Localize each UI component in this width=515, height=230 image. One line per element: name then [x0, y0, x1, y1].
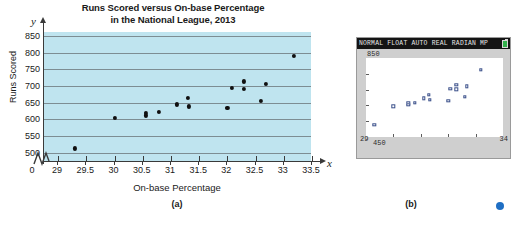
calculator-data-point	[373, 123, 376, 126]
x-axis-tick-label: 29	[52, 165, 62, 175]
x-axis-tick-label: 29.5	[77, 165, 95, 175]
x-axis-tick-label: 32.5	[246, 165, 264, 175]
y-axis-arrow-icon	[40, 17, 46, 23]
calculator-data-point	[455, 88, 458, 91]
y-axis-tick-label: 850	[16, 31, 40, 41]
calculator-x-min-label: 29	[360, 135, 368, 143]
calculator-y-max-label: 850	[367, 50, 380, 58]
y-axis-tick-label: 550	[16, 131, 40, 141]
calculator-mode-text: NORMAL FLOAT AUTO REAL RADIAN MP	[359, 40, 488, 47]
y-axis-tick-label: 600	[16, 114, 40, 124]
calculator-data-point	[407, 103, 410, 106]
x-axis-tick-label: 33.5	[302, 165, 320, 175]
data-point	[230, 86, 234, 90]
panel-a-caption: (a)	[43, 199, 311, 209]
gridline	[44, 36, 311, 37]
x-axis-tick-label: 30	[109, 165, 119, 175]
gridline	[44, 153, 311, 154]
data-point	[242, 79, 246, 83]
axis-break-icon	[33, 148, 53, 166]
chart-title-line-1: Runs Scored versus On-base Percentage	[28, 2, 318, 14]
calculator-data-point	[465, 85, 468, 88]
calculator-x-max-label: 34	[500, 135, 508, 143]
calculator-x-tick	[476, 134, 477, 137]
calculator-data-point	[449, 87, 452, 90]
calculator-data-point	[427, 93, 430, 96]
calculator-data-point	[428, 98, 431, 101]
data-point	[143, 113, 147, 117]
calculator-x-tick	[421, 134, 422, 137]
x-axis-origin-label: 0	[29, 165, 34, 175]
y-axis-line	[43, 22, 44, 164]
battery-icon	[502, 40, 508, 48]
data-point	[174, 102, 178, 106]
gridline	[44, 86, 311, 87]
gridline	[44, 136, 311, 137]
y-axis-tick-label: 700	[16, 81, 40, 91]
gridline	[44, 53, 311, 54]
x-axis-tick-label: 32	[221, 165, 231, 175]
data-point	[225, 106, 229, 110]
calculator-x-tick	[448, 134, 449, 137]
x-axis-tick-label: 31	[165, 165, 175, 175]
calculator-y-min-label: 450	[373, 139, 386, 147]
panel-b-caption: (b)	[356, 199, 466, 209]
decorative-bullet-icon	[496, 202, 504, 210]
calculator-data-point	[446, 99, 449, 102]
calculator-plot-area	[366, 58, 503, 137]
calculator-data-point	[422, 97, 425, 100]
calculator-y-tick	[366, 90, 369, 91]
y-axis-tick-label: 750	[16, 64, 40, 74]
x-axis-tick-label: 30.5	[133, 165, 151, 175]
data-point	[292, 54, 296, 58]
calculator-status-bar: NORMAL FLOAT AUTO REAL RADIAN MP	[357, 38, 510, 49]
data-point	[156, 110, 160, 114]
data-point	[187, 104, 191, 108]
calculator-data-point	[479, 68, 482, 71]
panel-b-calculator: NORMAL FLOAT AUTO REAL RADIAN MP 850 29 …	[353, 0, 515, 230]
x-axis-arrow-icon	[320, 158, 326, 164]
chart-title-line-2: in the National League, 2013	[28, 14, 318, 26]
calculator-data-point	[463, 95, 466, 98]
chart-title: Runs Scored versus On-base Percentage in…	[28, 2, 318, 25]
calculator-data-point	[392, 105, 395, 108]
plot-area	[43, 32, 311, 161]
calculator-data-point	[413, 101, 416, 104]
data-point	[242, 87, 246, 91]
calculator-screen: NORMAL FLOAT AUTO REAL RADIAN MP 850 29 …	[356, 37, 511, 159]
data-point	[186, 96, 190, 100]
gridline	[44, 119, 311, 120]
calculator-y-tick	[366, 74, 369, 75]
x-axis-tick-label: 33	[278, 165, 288, 175]
panel-a-scatter-plot: Runs Scored versus On-base Percentage in…	[0, 0, 350, 230]
data-point	[73, 146, 77, 150]
gridline	[44, 69, 311, 70]
x-axis-title: On-base Percentage	[43, 182, 311, 193]
x-axis-tick-label: 31.5	[189, 165, 207, 175]
calculator-x-tick	[393, 134, 394, 137]
calculator-y-tick	[366, 105, 369, 106]
x-axis-variable-label: x	[327, 157, 332, 169]
y-axis-title: Runs Scored	[8, 37, 18, 117]
calculator-data-point	[455, 83, 458, 86]
y-axis-tick-label: 650	[16, 98, 40, 108]
y-axis-tick-label: 800	[16, 48, 40, 58]
figure-container: Runs Scored versus On-base Percentage in…	[0, 0, 515, 230]
calculator-y-tick	[366, 121, 369, 122]
